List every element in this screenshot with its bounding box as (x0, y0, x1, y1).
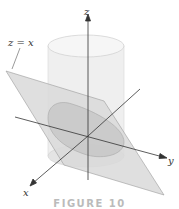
y-axis-arrow (159, 154, 167, 159)
x-axis-arrow (30, 179, 37, 186)
plane-label-leader (12, 48, 20, 69)
x-axis-label: x (23, 187, 29, 198)
plane-label: z = x (7, 37, 34, 48)
figure-diagram: z y x z = x (0, 0, 179, 209)
z-axis-label: z (83, 6, 90, 17)
figure-caption: FIGURE 10 (0, 198, 179, 209)
y-axis-label: y (167, 155, 174, 166)
